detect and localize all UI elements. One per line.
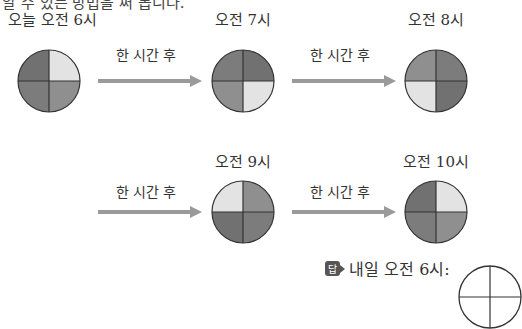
arrow-right-icon: [98, 75, 202, 87]
pie-clock-6am: [17, 49, 81, 113]
arrow-right-icon: [292, 206, 396, 218]
clock-label-9am: 오전 9시: [215, 150, 271, 171]
arrow-label-4: 한 시간 후: [310, 181, 371, 201]
arrow-label-1: 한 시간 후: [116, 44, 177, 64]
arrow-right-icon: [292, 75, 396, 87]
arrow-label-2: 한 시간 후: [310, 44, 371, 64]
clock-label-8am: 오전 8시: [408, 8, 464, 29]
answer-row: 답 내일 오전 6시:: [325, 256, 450, 280]
pie-clock-8am: [404, 49, 468, 113]
pie-clock-7am: [211, 49, 275, 113]
answer-label: 내일 오전 6시:: [349, 256, 450, 280]
answer-badge-icon: 답: [325, 261, 340, 276]
empty-answer-circle[interactable]: [458, 265, 522, 329]
clock-label-6am-today: 오늘 오전 6시: [8, 8, 97, 29]
clock-label-7am: 오전 7시: [215, 8, 271, 29]
pie-clock-9am: [211, 180, 275, 244]
clock-label-10am: 오전 10시: [403, 150, 469, 171]
pie-clock-10am: [404, 180, 468, 244]
arrow-right-icon: [98, 206, 202, 218]
arrow-label-3: 한 시간 후: [116, 181, 177, 201]
